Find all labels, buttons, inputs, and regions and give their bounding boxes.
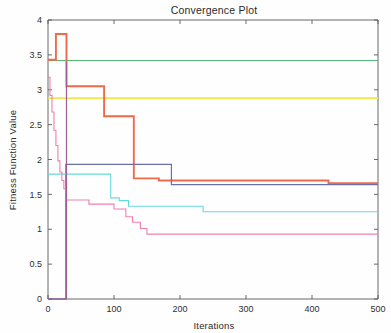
- x-axis-ticks: 0100200300400500: [45, 20, 385, 314]
- plot-frame: [48, 20, 378, 299]
- y-tick-label: 3: [37, 85, 42, 95]
- series-orange-stepped: [48, 34, 378, 183]
- y-tick-label: 2: [37, 155, 42, 165]
- y-tick-label: 2.5: [29, 120, 42, 130]
- plot-title: Convergence Plot: [171, 4, 258, 16]
- series-magenta-stepped: [48, 77, 378, 234]
- x-tick-label: 200: [172, 304, 187, 314]
- x-axis-title-group: Iterations: [193, 320, 234, 331]
- series-navy-stepped: [48, 164, 378, 299]
- plot-box: [48, 20, 378, 299]
- y-tick-label: 4: [37, 15, 42, 25]
- y-axis-title-group: Fitness Function Value: [7, 110, 18, 210]
- x-tick-label: 100: [106, 304, 121, 314]
- x-tick-label: 500: [370, 304, 385, 314]
- convergence-plot-svg: Convergence Plot Fitness Function Value …: [0, 0, 391, 333]
- x-tick-label: 300: [238, 304, 253, 314]
- y-axis-ticks: 00.511.522.533.54: [29, 15, 378, 304]
- x-tick-label: 0: [45, 304, 50, 314]
- data-series-layer: [48, 34, 378, 299]
- convergence-plot-figure: Convergence Plot Fitness Function Value …: [0, 0, 391, 333]
- y-tick-label: 1: [37, 224, 42, 234]
- y-tick-label: 1.5: [29, 190, 42, 200]
- plot-title-group: Convergence Plot: [171, 4, 258, 16]
- x-axis-label: Iterations: [193, 320, 234, 331]
- y-tick-label: 0.5: [29, 259, 42, 269]
- x-tick-label: 400: [304, 304, 319, 314]
- y-tick-label: 3.5: [29, 50, 42, 60]
- y-tick-label: 0: [37, 294, 42, 304]
- y-axis-label: Fitness Function Value: [7, 110, 18, 210]
